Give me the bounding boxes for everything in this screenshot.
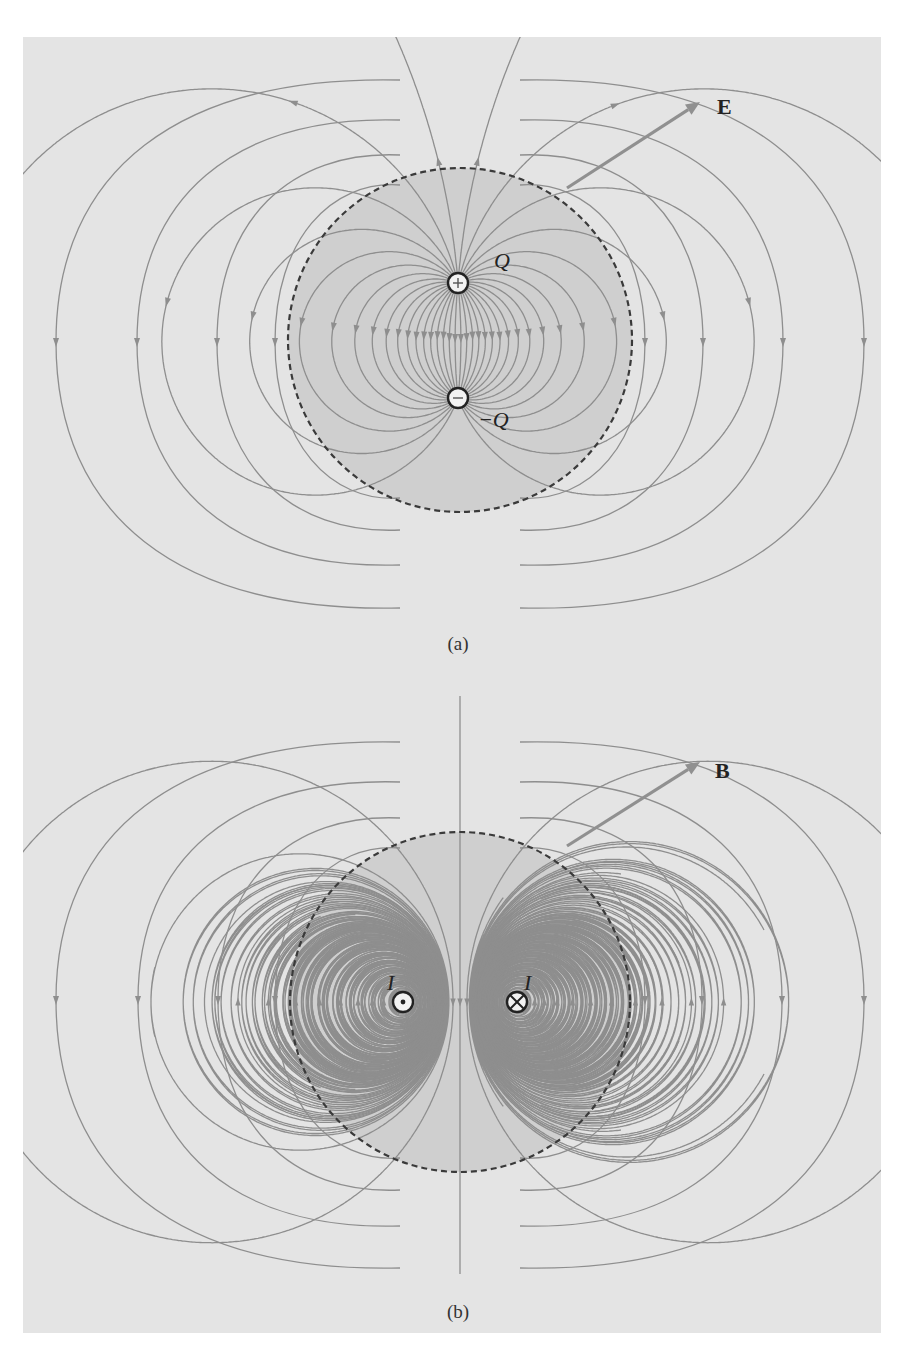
e-field-label: E bbox=[717, 94, 732, 119]
charge-label: Q bbox=[494, 248, 510, 273]
caption-a: (a) bbox=[447, 633, 468, 655]
dipole-field-figure: E Q−Q (a) B II (b) bbox=[0, 0, 916, 1361]
charge-label: −Q bbox=[478, 407, 509, 432]
b-field-label: B bbox=[715, 758, 730, 783]
caption-b: (b) bbox=[447, 1301, 469, 1323]
